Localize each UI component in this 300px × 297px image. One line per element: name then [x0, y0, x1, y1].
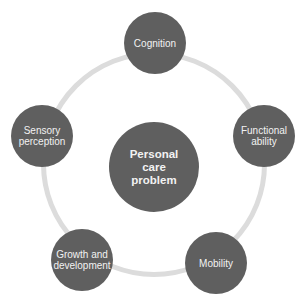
node-growth-and-development: Growth and development	[51, 229, 113, 291]
node-label: Cognition	[134, 38, 176, 49]
node-sensory-perception: Sensory perception	[11, 105, 73, 167]
center-node-personal-care-problem: Personal care problem	[109, 122, 199, 212]
node-label: Mobility	[199, 258, 233, 269]
node-cognition: Cognition	[124, 12, 186, 74]
node-label: Sensory perception	[14, 125, 70, 147]
node-functional-ability: Functional ability	[233, 105, 295, 167]
node-mobility: Mobility	[185, 232, 247, 294]
node-label: Growth and development	[53, 249, 110, 271]
center-node-label: Personal care problem	[123, 148, 185, 187]
node-label: Functional ability	[236, 125, 292, 147]
